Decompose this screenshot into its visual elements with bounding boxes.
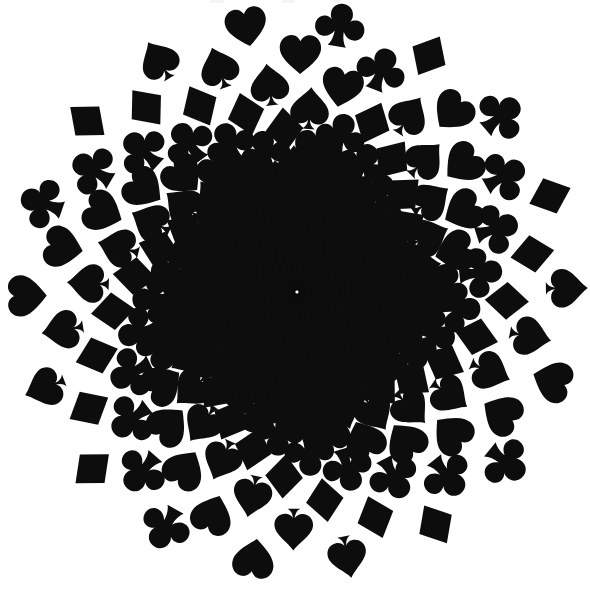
- suit-spiral-figure: [0, 0, 590, 589]
- artwork-canvas: [0, 0, 590, 589]
